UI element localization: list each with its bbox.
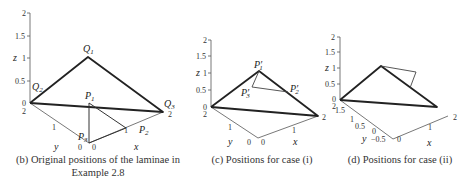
x-tick: 2: [322, 113, 326, 122]
z-axis-label: z: [324, 62, 329, 73]
point-P1-prime-label: P′1: [253, 59, 263, 72]
y-tick: 2: [22, 107, 26, 116]
panel-c-plot: 2 1.5 1 0.5 0 z 2 1 0 0 1 2 y x P′1 P′2 …: [195, 36, 326, 147]
point-Q1-label: Q1: [83, 43, 94, 56]
x-tick: 1: [292, 126, 296, 135]
y-tick: 0: [78, 143, 82, 152]
z-tick: 1.5: [15, 32, 25, 41]
z-tick: 2: [203, 36, 207, 45]
y-tick: 1: [350, 115, 354, 124]
x-axis-label: x: [133, 141, 139, 152]
y-tick: 1.5: [335, 106, 345, 115]
x-tick: 2: [168, 110, 172, 119]
panel-b-plot: 2 1.5 1 0.5 0 z 2 1 0 0 1 2 y x Q1 Q2 Q3…: [12, 9, 175, 152]
caption-d: (d) Positions for case (ii): [332, 154, 468, 167]
y-axis-label: y: [361, 133, 367, 144]
x-axis-label: x: [426, 137, 432, 148]
caption-panel-c: (c) Positions for case (i): [196, 154, 328, 167]
z-axis-label: z: [12, 52, 17, 63]
z-tick: 1.5: [325, 48, 335, 57]
caption-panel-d: (d) Positions for case (ii): [332, 154, 468, 167]
y-tick: 2: [203, 110, 207, 119]
point-P2-label: P2: [138, 124, 149, 137]
y-tick: 0: [247, 138, 251, 147]
x-tick: 0: [397, 135, 401, 144]
z-tick: 2: [331, 33, 335, 42]
y-tick: 1: [228, 123, 232, 132]
caption-b-line2: Example 2.8: [8, 167, 188, 180]
y-axis-label: y: [227, 136, 233, 147]
caption-c: (c) Positions for case (i): [196, 154, 328, 167]
z-tick: 1: [332, 64, 336, 73]
y-tick: 0.5: [355, 122, 365, 131]
z-tick: 2: [22, 9, 26, 18]
x-tick: 1: [428, 123, 432, 132]
point-Q2-label: Q2: [32, 81, 43, 94]
z-tick: 0.5: [196, 86, 206, 95]
point-P3-prime-label: P′3: [240, 87, 250, 100]
y-tick: −0.5: [371, 135, 386, 144]
panel-d-plot: 2 1.5 1 0.5 0 z 2 1.5 1 0.5 0 −0.5 0 1 2…: [324, 33, 457, 148]
z-tick: 0.5: [15, 77, 25, 86]
z-axis-label: z: [195, 67, 200, 78]
caption-panel-b: (b) Original positions of the laminae in…: [8, 154, 188, 179]
z-tick: 0.5: [325, 80, 335, 89]
z-tick: 1.5: [196, 52, 206, 61]
x-tick: 0: [261, 138, 265, 147]
z-tick: 1: [22, 54, 26, 63]
y-axis-label: y: [53, 141, 59, 152]
caption-b-line1: (b) Original positions of the laminae in: [8, 154, 188, 167]
x-tick: 2: [453, 113, 457, 122]
y-tick: 1: [52, 123, 56, 132]
point-P1-label: P1: [84, 90, 95, 103]
x-tick: 0: [92, 143, 96, 152]
z-tick: 1: [203, 69, 207, 78]
x-axis-label: x: [292, 136, 298, 147]
